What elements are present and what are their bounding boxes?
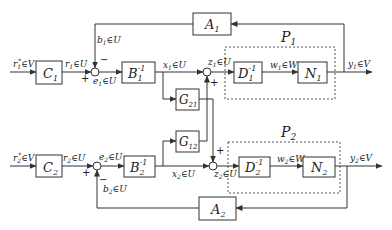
signal-w1-label: w1∈W [270, 60, 298, 71]
summer-z1-plus-sign: + [210, 77, 218, 88]
summer-e1-minus-sign: − [100, 54, 108, 65]
signal-e2-label: e2∈U [99, 152, 123, 163]
plant-p2-label: P2 [280, 124, 296, 142]
signal-r1star-label: r1*∈V [13, 57, 36, 70]
summer-e2-minus-sign: − [99, 174, 107, 185]
signal-r2-label: r2∈U [63, 153, 86, 164]
wire-x1-to-g21 [163, 72, 176, 99]
wire-x2-to-g12 [163, 141, 176, 166]
signal-x1-label: x1∈U [163, 60, 187, 71]
signal-b2-label: b2∈U [103, 184, 127, 195]
summer-e2-plus-sign: + [82, 167, 90, 178]
summer-e2 [93, 162, 101, 170]
signal-w2-label: w2∈W [277, 154, 305, 165]
summer-e1-plus-sign: + [81, 73, 89, 84]
wire-g12-to-z1 [199, 76, 207, 141]
wire-g21-to-z2 [199, 99, 213, 162]
signal-y2-label: y2∈V [349, 153, 374, 164]
signal-e1-label: e1∈U [93, 76, 117, 87]
signal-r1-label: r1∈U [65, 59, 88, 70]
summer-z2-plus-sign: + [216, 145, 224, 156]
plant-p1-label: P1 [280, 29, 296, 47]
signal-z2-label: z2∈U [213, 169, 237, 180]
block-d2-label: D2-1 [244, 158, 263, 177]
signal-b1-label: b1∈U [97, 35, 121, 46]
block-diagram: C1 B1-1 A1 D1-1 N1 G21 G12 C2 B2-1 A2 D2… [0, 0, 392, 230]
signal-x2-label: x2∈U [172, 169, 196, 180]
signal-z1-label: z1∈U [207, 57, 231, 68]
block-d1-label: D1-1 [237, 64, 256, 83]
diagram-canvas: C1 B1-1 A1 D1-1 N1 G21 G12 C2 B2-1 A2 D2… [0, 0, 392, 230]
signal-y1-label: y1∈V [347, 59, 372, 70]
summer-z1 [203, 68, 211, 76]
summer-e1 [91, 68, 99, 76]
signal-r2star-label: r2*∈V [13, 151, 36, 164]
